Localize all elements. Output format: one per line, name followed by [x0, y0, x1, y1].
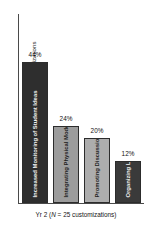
x-caption-suffix: = 25 customizations)	[56, 211, 117, 218]
bar-3[interactable]: Promoting Discussion	[84, 138, 110, 203]
bar-group: 44% Increased Monitoring of Student Idea…	[22, 14, 144, 203]
bar-value-4: 12%	[108, 150, 148, 157]
bar-value-2: 24%	[46, 115, 86, 122]
plot-area: 44% Increased Monitoring of Student Idea…	[18, 14, 144, 204]
bar-value-1: 44%	[15, 51, 55, 58]
bar-label-2: Integrating Physical Models	[63, 126, 70, 198]
y-axis-line	[18, 14, 19, 204]
bar-1[interactable]: Increased Monitoring of Student Ideas	[22, 62, 48, 203]
x-axis-line	[18, 203, 144, 204]
bar-label-3: Promoting Discussion	[94, 138, 101, 198]
x-axis-caption: Yr 2 (N = 25 customizations)	[0, 211, 152, 218]
x-caption-prefix: Yr 2 (	[36, 211, 52, 218]
bar-label-4: Organizing Learning	[125, 161, 132, 198]
bar-2[interactable]: Integrating Physical Models	[53, 126, 79, 203]
bar-4[interactable]: Organizing Learning	[115, 161, 141, 203]
bar-value-3: 20%	[77, 127, 117, 134]
chart-figure: Frequency of Pedagogical Customizations …	[0, 0, 152, 230]
bar-label-1: Increased Monitoring of Student Ideas	[32, 91, 39, 198]
